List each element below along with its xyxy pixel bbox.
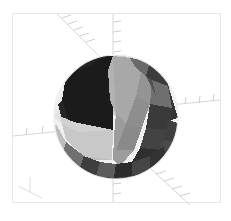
figure-canvas [0,0,231,221]
plot-frame [12,13,221,203]
